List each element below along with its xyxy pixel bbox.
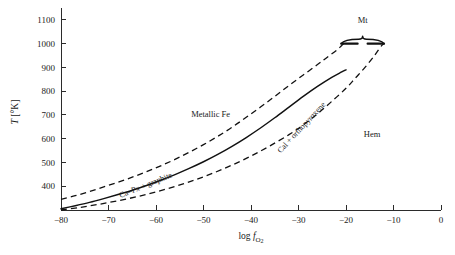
x-tick-label: −40 [244, 215, 259, 225]
phase-diagram-figure: 40050060070080090010001100 −80−70−60−50−… [0, 0, 455, 255]
y-tick-label: 600 [42, 134, 56, 144]
x-tick-label: −80 [54, 215, 69, 225]
y-tick-label: 1100 [37, 15, 55, 25]
annotation-cal-orthopyroxene: Cal + orthopyroxene [276, 100, 328, 155]
y-tick-label: 1000 [37, 39, 56, 49]
x-axis-title: log fO2 [238, 231, 263, 244]
mt-brace-icon [341, 36, 384, 44]
x-tick-label: −60 [149, 215, 164, 225]
y-tick-label: 900 [42, 63, 56, 73]
y-tick-label: 800 [42, 86, 56, 96]
y-axis-ticks: 40050060070080090010001100 [37, 15, 66, 191]
annotation-metallic-fe: Metallic Fe [191, 109, 230, 119]
curves-group [61, 44, 384, 210]
axis-titles: log fO2 T [°K] [10, 100, 264, 244]
x-tick-label: −70 [101, 215, 116, 225]
x-tick-label: −50 [196, 215, 211, 225]
x-tick-label: −20 [339, 215, 354, 225]
chart-canvas: 40050060070080090010001100 −80−70−60−50−… [0, 0, 455, 255]
x-axis-ticks: −80−70−60−50−40−30−20−100 [54, 205, 444, 225]
x-tick-label: −10 [386, 215, 401, 225]
y-axis-title: T [°K] [10, 100, 20, 125]
y-tick-label: 500 [42, 158, 56, 168]
x-tick-label: 0 [439, 215, 444, 225]
y-tick-label: 400 [42, 181, 56, 191]
axes-group [61, 8, 441, 210]
annotation-mt: Mt [358, 15, 369, 25]
x-tick-label: −30 [291, 215, 306, 225]
annotation-hem: Hem [364, 129, 381, 139]
mt-brace-group [341, 36, 384, 44]
y-tick-label: 700 [42, 110, 56, 120]
annotation-ca-px-graphite: Ca–Px + graphite [118, 170, 174, 200]
center-curve [61, 70, 346, 209]
